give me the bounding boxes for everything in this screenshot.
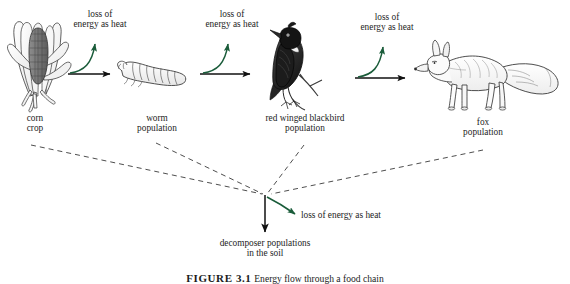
blackbird-icon <box>270 22 322 110</box>
heat-arrow-2 <box>203 44 228 73</box>
worm-icon <box>118 61 186 87</box>
energy-transfer-arrows <box>68 74 405 78</box>
decomposer-dashed-links <box>31 143 483 194</box>
label-blackbird-population: red winged blackbird population <box>231 113 379 134</box>
heat-label-4: loss of energy as heat <box>301 210 381 220</box>
heat-label-1: loss of energy as heat <box>58 9 142 30</box>
label-corn-crop: corn crop <box>0 113 70 134</box>
label-fox-population: fox population <box>438 117 528 138</box>
heat-arrow-3 <box>358 47 383 77</box>
dashed-from-corn <box>31 145 262 194</box>
label-worm-population: worm population <box>112 113 202 134</box>
heat-arrow-1 <box>70 44 95 73</box>
corn-icon <box>7 22 71 112</box>
heat-label-2: loss of energy as heat <box>190 9 274 30</box>
dashed-from-worm <box>156 143 263 194</box>
heat-label-3: loss of energy as heat <box>345 12 429 33</box>
label-decomposer-populations: decomposer populations in the soil <box>190 238 340 259</box>
figure-caption-text: Energy flow through a food chain <box>254 273 384 284</box>
figure-caption: FIGURE 3.1 Energy flow through a food ch… <box>0 272 570 284</box>
dashed-from-fox <box>271 150 483 194</box>
dashed-from-blackbird <box>267 145 304 194</box>
fox-icon <box>414 40 558 110</box>
figure-caption-label: FIGURE 3.1 <box>186 272 251 284</box>
heat-arrow-4 <box>267 197 295 214</box>
